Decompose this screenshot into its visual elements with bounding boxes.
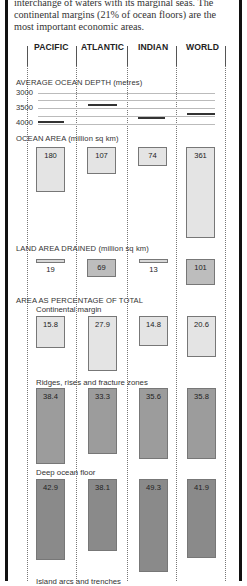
depth-tick-3000: 3000 (16, 88, 33, 97)
land-area-value-pacific: 19 (36, 265, 65, 274)
ridges-bar-indian: 35.6 (139, 388, 168, 459)
column-guide (27, 66, 28, 581)
column-header-atlantic: ATLANTIC (81, 42, 124, 52)
percentage-title: AREA AS PERCENTAGE OF TOTAL (16, 296, 143, 305)
continental-margin-label: Continental margin (36, 305, 101, 314)
column-header-indian: INDIAN (138, 42, 168, 52)
column-divider (127, 46, 128, 66)
depth-marker-indian (138, 117, 165, 119)
ridges-bar-world: 35.8 (187, 388, 216, 459)
ridges-bar-pacific: 38.4 (36, 388, 65, 464)
gridline (38, 108, 215, 109)
continental-margin-bar-world: 20.6 (187, 316, 216, 357)
depth-tick-3500: 3500 (16, 103, 33, 112)
ocean-area-title: OCEAN AREA (million sq km) (16, 134, 119, 143)
intro-text: interchange of waters with its marginal … (14, 0, 236, 33)
land-area-bar-atlantic: 69 (87, 259, 116, 277)
ocean-area-bar-world: 361 (186, 147, 215, 238)
deep-ocean-floor-label: Deep ocean floor (36, 468, 95, 477)
depth-marker-atlantic (88, 104, 117, 106)
column-divider (176, 46, 177, 66)
continental-margin-bar-atlantic: 27.9 (88, 316, 117, 371)
column-divider (225, 46, 226, 66)
depth-marker-world (187, 113, 215, 115)
deep-floor-bar-world: 41.9 (187, 479, 216, 558)
column-guide (176, 66, 177, 581)
column-guide (127, 66, 128, 581)
land-area-bar-indian (139, 259, 168, 263)
column-guide (76, 66, 77, 581)
deep-floor-bar-atlantic: 38.1 (88, 479, 117, 551)
column-divider (27, 46, 28, 66)
column-header-pacific: PACIFIC (34, 42, 68, 52)
column-header-world: WORLD (186, 42, 219, 52)
gridline (38, 116, 215, 117)
island-arcs-label: Island arcs and trenches (36, 577, 121, 586)
frame-left-border (5, 0, 8, 581)
column-divider (76, 46, 77, 66)
gridline (38, 100, 215, 101)
continental-margin-bar-pacific: 15.8 (36, 316, 65, 348)
frame-right-border (239, 0, 242, 581)
deep-floor-bar-indian: 49.3 (139, 479, 168, 572)
land-area-value-indian: 13 (139, 265, 168, 274)
ocean-area-bar-atlantic: 107 (87, 147, 116, 174)
depth-marker-pacific (38, 121, 64, 123)
column-guide (225, 66, 226, 581)
depth-section-title: AVERAGE OCEAN DEPTH (metres) (16, 78, 142, 87)
deep-floor-bar-pacific: 42.9 (36, 479, 65, 560)
depth-tick-4000: 4000 (16, 118, 33, 127)
ridges-label: Ridges, rises and fracture zones (36, 378, 148, 387)
gridline (38, 124, 215, 125)
land-area-title: LAND AREA DRAINED (million sq km) (16, 244, 149, 253)
ocean-area-bar-indian: 74 (138, 147, 167, 166)
land-area-bar-pacific (36, 259, 65, 263)
land-area-bar-world: 101 (186, 259, 215, 285)
ridges-bar-atlantic: 33.3 (88, 388, 117, 454)
gridline (38, 93, 215, 94)
continental-margin-bar-indian: 14.8 (139, 316, 168, 346)
ocean-area-bar-pacific: 180 (36, 147, 65, 192)
